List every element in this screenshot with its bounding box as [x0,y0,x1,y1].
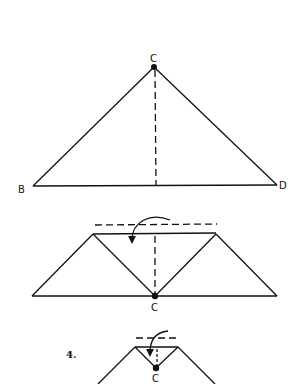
edge-bc [33,67,154,186]
label-c-bottom: C [152,373,159,384]
edge-left-inner [135,347,156,368]
arrow-fold-down-icon [132,217,170,240]
edge-right-outer [216,234,277,296]
label-c-bottom: C [151,302,158,313]
edge-left-inner [93,234,155,296]
edge-bd [33,185,277,186]
figure-step-4: 4. C [66,331,215,384]
edge-right-inner [156,347,178,368]
point-c [152,293,158,299]
point-c [153,365,159,371]
label-b: B [18,184,25,195]
point-c [151,64,157,70]
fold-line-top [95,224,217,225]
label-d: D [279,180,287,191]
edge-top [93,233,216,234]
label-c-apex: C [150,53,157,64]
edge-left-outer [98,347,135,384]
edge-right-outer [178,347,215,384]
edge-cd [154,67,277,185]
fold-line-center [155,70,156,186]
figure-fold-down: C [32,217,277,313]
arrow-fold-down-icon [150,331,168,353]
figure-triangle: C B D [18,53,287,195]
edge-left-outer [32,234,93,296]
origami-diagram: C B D C 4. C [0,0,299,384]
edge-right-inner [155,234,216,296]
step-number: 4. [66,349,76,360]
